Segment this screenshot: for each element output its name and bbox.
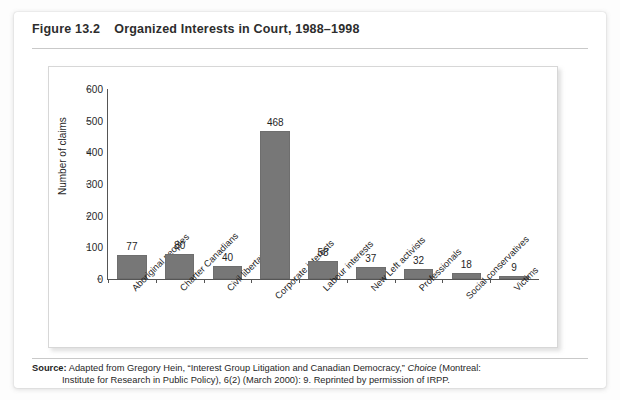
bar-value-label: 37 — [365, 253, 376, 264]
y-tick-100: 100 — [86, 242, 107, 253]
bar-value-label: 9 — [511, 262, 517, 273]
bar-series: 77Aboriginal peoples80Charter Canadians4… — [108, 89, 538, 279]
figure-card: Figure 13.2 Organized Interests in Court… — [14, 12, 606, 388]
bar-slot: 468Corporate interests — [251, 89, 299, 279]
bar-slot: 40Civil libertarians — [204, 89, 252, 279]
bar-value-label: 80 — [174, 240, 185, 251]
source-note: Source: Adapted from Gregory Hein, “Inte… — [32, 363, 592, 386]
x-tick-mark — [395, 279, 396, 283]
header-divider — [32, 48, 588, 49]
figure-number: Figure 13.2 — [32, 22, 100, 36]
y-tick-mark — [86, 247, 90, 248]
bar-slot: 37New Left activists — [347, 89, 395, 279]
bar-slot: 32Professionals — [395, 89, 443, 279]
y-tick-600: 600 — [86, 84, 107, 95]
y-tick-mark — [86, 184, 90, 185]
y-axis-title: Number of claims — [57, 117, 68, 195]
source-journal: Choice — [408, 363, 437, 373]
x-tick-mark — [251, 279, 252, 283]
bar-slot: 9Victims — [490, 89, 538, 279]
bar-value-label: 58 — [317, 247, 328, 258]
source-divider — [32, 358, 588, 359]
chart-plot-area: Number of claims 0100200300400500600 77A… — [48, 66, 558, 348]
bar-slot: 58Labour interests — [299, 89, 347, 279]
y-tick-mark — [86, 215, 90, 216]
figure-title: Organized Interests in Court, 1988–1998 — [114, 22, 359, 36]
bar-slot: 18Social conservatives — [442, 89, 490, 279]
bar-value-label: 468 — [267, 117, 284, 128]
bar[interactable] — [260, 131, 290, 279]
x-axis-line — [107, 279, 539, 280]
y-tick-300: 300 — [86, 179, 107, 190]
y-tick-mark — [97, 279, 101, 280]
figure-page: Figure 13.2 Organized Interests in Court… — [0, 0, 620, 400]
x-tick-mark — [490, 279, 491, 283]
y-tick-mark — [86, 120, 90, 121]
x-tick-mark — [204, 279, 205, 283]
y-tick-400: 400 — [86, 147, 107, 158]
bar-value-label: 40 — [222, 252, 233, 263]
source-text-a: Adapted from Gregory Hein, “Interest Gro… — [67, 363, 408, 373]
y-tick-200: 200 — [86, 210, 107, 221]
bar-slot: 77Aboriginal peoples — [108, 89, 156, 279]
x-tick-mark — [108, 279, 109, 283]
y-tick-mark — [86, 89, 90, 90]
source-text-b: (Montreal: — [436, 363, 480, 373]
x-tick-mark — [156, 279, 157, 283]
x-tick-mark — [299, 279, 300, 283]
bar-slot: 80Charter Canadians — [156, 89, 204, 279]
x-tick-mark — [442, 279, 443, 283]
y-tick-mark — [86, 152, 90, 153]
chart-inner: 0100200300400500600 77Aboriginal peoples… — [107, 89, 537, 279]
figure-header: Figure 13.2 Organized Interests in Court… — [14, 22, 606, 36]
y-tick-500: 500 — [86, 115, 107, 126]
bar-value-label: 18 — [461, 259, 472, 270]
bar-value-label: 32 — [413, 255, 424, 266]
bar-value-label: 77 — [126, 241, 137, 252]
x-tick-mark — [347, 279, 348, 283]
y-tick-0: 0 — [97, 274, 107, 285]
source-label: Source: — [32, 363, 67, 373]
source-line-2: Institute for Research in Public Policy)… — [32, 375, 592, 387]
bar[interactable] — [452, 273, 482, 279]
